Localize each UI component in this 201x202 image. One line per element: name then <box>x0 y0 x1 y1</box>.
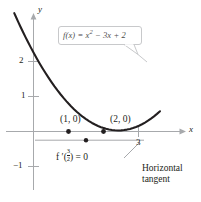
y-tick-label-minus-1: −1 <box>13 161 23 170</box>
derivative-paren-close: ) = 0 <box>70 152 88 162</box>
callout-leader-line <box>138 55 147 63</box>
point-label-root-1: (1, 0) <box>60 115 81 125</box>
function-tail: − 3x + 2 <box>93 30 126 40</box>
y-axis <box>31 13 37 190</box>
y-axis-label: y <box>38 5 42 14</box>
point-label-root-2: (2, 0) <box>110 115 131 125</box>
x-axis-label: x <box>189 125 193 134</box>
y-tick-label-2: 2 <box>19 56 24 65</box>
y-tick-label-1: 1 <box>21 91 26 100</box>
root-point-1 <box>66 129 71 134</box>
function-args: (x) = x <box>65 30 89 40</box>
horizontal-tangent-annotation: Horizontal tangent <box>142 163 183 185</box>
root-point-2 <box>101 129 106 134</box>
derivative-note: f ′(32) = 0 <box>56 148 88 162</box>
derivative-prime: f ′ <box>56 152 64 162</box>
vertex-point <box>84 138 88 142</box>
function-expression: f(x) = x2 − 3x + 2 <box>63 31 126 40</box>
x-tick-label-3: 3 <box>136 138 141 147</box>
graph-figure: y x 2 1 −1 3 (1, 0) (2, 0) f(x) = x2 − 3… <box>0 0 201 202</box>
